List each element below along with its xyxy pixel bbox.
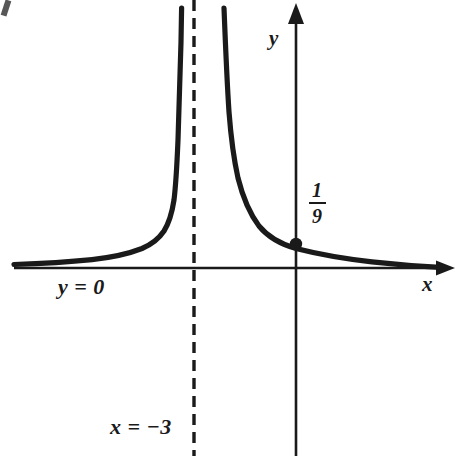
y-intercept-value-label: 1 9 xyxy=(300,180,334,226)
horizontal-asymptote-label: y = 0 xyxy=(58,276,105,298)
y-axis-label: y xyxy=(269,28,278,49)
y-intercept-dot xyxy=(290,238,302,250)
plot-area xyxy=(0,0,455,456)
curve-right-branch xyxy=(224,8,440,267)
fraction-denominator: 9 xyxy=(300,206,334,226)
curve-left-branch xyxy=(14,8,182,265)
fraction-numerator: 1 xyxy=(300,180,334,201)
vertical-asymptote-label: x = −3 xyxy=(110,416,172,438)
fraction-bar xyxy=(309,202,326,204)
x-axis-label: x xyxy=(422,274,433,295)
y-axis xyxy=(288,3,304,456)
graph-figure: y = 0 x = −3 x y 1 9 xyxy=(0,0,455,456)
